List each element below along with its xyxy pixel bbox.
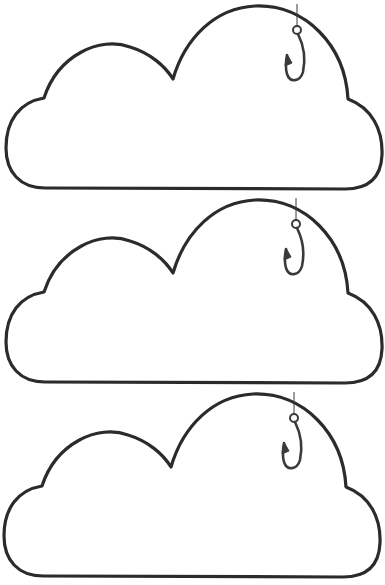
cloud-3 [0,388,385,583]
cloud-1 [0,0,385,195]
cloud-outline [6,6,382,189]
cloud-outline [4,394,380,577]
cloud-with-hook-icon [0,194,385,389]
cloud-outline [6,200,382,383]
cloud-2 [0,194,385,389]
cloud-with-hook-icon [0,388,385,583]
cloud-with-hook-icon [0,0,385,195]
